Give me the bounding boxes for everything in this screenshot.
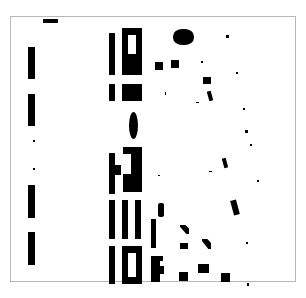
mid-rect-2 — [122, 84, 142, 101]
binary-image-canvas — [0, 0, 306, 298]
dash-d — [196, 102, 199, 103]
dot-f — [245, 130, 248, 133]
mid-bar-7 — [109, 246, 115, 284]
left-bar-3 — [28, 185, 35, 218]
mid-bar-1 — [109, 33, 115, 75]
dot-q — [246, 242, 248, 244]
dot-j — [257, 180, 259, 182]
diamond — [173, 29, 194, 45]
mid-bar-5 — [122, 200, 128, 239]
square-t — [198, 264, 209, 273]
mid-oval — [129, 112, 138, 139]
square-b — [171, 60, 179, 68]
left-bar-2 — [28, 94, 35, 126]
bar-m — [151, 219, 156, 248]
mid-rect-4-window — [128, 253, 136, 277]
dot-v — [247, 283, 249, 286]
left-bar-1 — [28, 47, 35, 79]
mid-rect-1-window — [128, 35, 136, 54]
pill-l — [158, 203, 164, 217]
left-dot-1 — [33, 140, 35, 142]
dot-e — [243, 108, 245, 110]
square-a — [155, 62, 163, 70]
mid-rect-3-notch — [123, 154, 131, 174]
square-o — [180, 243, 188, 249]
mid-bar-2 — [109, 84, 115, 101]
left-dot-2 — [33, 168, 35, 170]
square-s — [179, 272, 188, 281]
dot-a — [226, 35, 229, 38]
square-c — [203, 77, 211, 84]
dot-b — [201, 61, 203, 63]
slash-a — [165, 92, 166, 95]
dash-i — [209, 171, 212, 172]
dot-h — [158, 175, 160, 176]
block-r-nub — [160, 256, 163, 261]
mid-nub — [115, 165, 121, 175]
top-dash — [43, 19, 58, 23]
square-u — [221, 273, 230, 282]
left-bar-4 — [28, 232, 35, 265]
mid-bar-6 — [135, 200, 141, 239]
dot-c — [236, 72, 238, 74]
block-r-ext — [158, 266, 164, 274]
dot-g — [250, 144, 252, 146]
mid-bar-4 — [109, 200, 115, 239]
